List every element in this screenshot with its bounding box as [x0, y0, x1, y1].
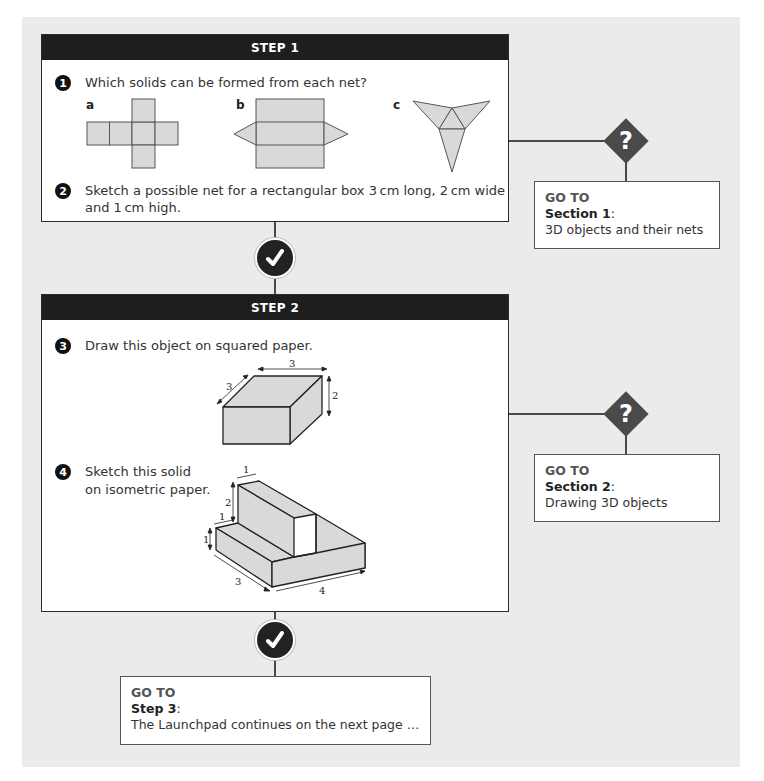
goto-description: Drawing 3D objects [545, 495, 709, 511]
step2-header: STEP 2 [42, 295, 508, 320]
check-badge-1 [255, 238, 295, 278]
goto-section-1-box[interactable]: GO TO Section 1: 3D objects and their ne… [534, 181, 720, 249]
checkmark-icon [264, 629, 286, 651]
question-3-text: Draw this object on squared paper. [85, 337, 313, 354]
step1-header: STEP 1 [42, 35, 508, 60]
checkmark-icon [264, 247, 286, 269]
goto-section-2-box[interactable]: GO TO Section 2: Drawing 3D objects [534, 454, 720, 522]
net-b-label: b [236, 98, 245, 112]
check-badge-2 [255, 620, 295, 660]
goto-section: Section 2 [545, 479, 611, 494]
goto-description: 3D objects and their nets [545, 222, 709, 238]
question-3-number: 3 [55, 338, 71, 354]
question-4-number: 4 [55, 464, 71, 480]
question-2-line2: and 1 cm high. [85, 199, 181, 216]
goto-description: The Launchpad continues on the next page… [131, 717, 420, 733]
question-mark-icon: ? [603, 118, 649, 164]
question-2-number: 2 [55, 183, 71, 199]
goto-title: GO TO [545, 190, 709, 206]
goto-title: GO TO [545, 463, 709, 479]
goto-section: Step 3 [131, 701, 176, 716]
net-a-label: a [86, 98, 94, 112]
net-c-label: c [393, 98, 400, 112]
question-2-line1: Sketch a possible net for a rectangular … [85, 182, 505, 199]
question-4-line2: on isometric paper. [85, 481, 210, 498]
goto-section: Section 1 [545, 206, 611, 221]
question-1-number: 1 [55, 75, 71, 91]
goto-step-3-box[interactable]: GO TO Step 3: The Launchpad continues on… [120, 676, 431, 745]
goto-title: GO TO [131, 685, 420, 701]
question-1-text: Which solids can be formed from each net… [85, 74, 367, 91]
question-mark-icon: ? [603, 391, 649, 437]
question-4-line1: Sketch this solid [85, 463, 191, 480]
